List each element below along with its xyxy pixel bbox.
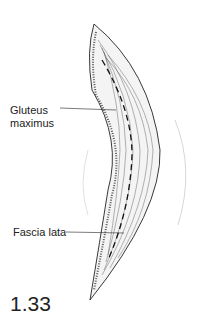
label-line-1: Gluteus: [10, 104, 54, 117]
label-gluteus-maximus: Gluteus maximus: [10, 104, 54, 130]
label-fascia-lata: Fascia lata: [13, 226, 66, 239]
anatomical-illustration: [0, 0, 198, 333]
figure-number: 1.33: [10, 292, 51, 316]
label-line-2: maximus: [10, 117, 54, 130]
